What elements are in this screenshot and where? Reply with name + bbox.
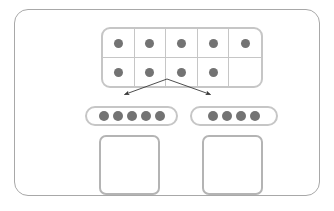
dot xyxy=(114,39,123,48)
ten-frame[interactable] xyxy=(101,27,263,88)
dot xyxy=(209,68,218,77)
dot xyxy=(177,39,186,48)
ten-frame-cell-r1c4[interactable] xyxy=(198,29,230,57)
ten-frame-cell-r1c3[interactable] xyxy=(166,29,198,57)
dot xyxy=(241,39,250,48)
ten-frame-top-row xyxy=(103,29,261,58)
right-answer-box[interactable] xyxy=(202,135,263,195)
worksheet-canvas xyxy=(0,0,334,211)
dot xyxy=(250,111,260,121)
ten-frame-cell-r1c5[interactable] xyxy=(229,29,261,57)
ten-frame-cell-r2c2[interactable] xyxy=(135,58,167,86)
ten-frame-cell-r2c4[interactable] xyxy=(198,58,230,86)
dot xyxy=(208,111,218,121)
left-dot-group[interactable] xyxy=(85,106,178,126)
dot xyxy=(236,111,246,121)
worksheet-card xyxy=(14,9,320,196)
dot xyxy=(127,111,137,121)
ten-frame-cell-r1c2[interactable] xyxy=(135,29,167,57)
ten-frame-cell-r2c5-empty[interactable] xyxy=(229,58,261,86)
ten-frame-cell-r1c1[interactable] xyxy=(103,29,135,57)
ten-frame-cell-r2c3[interactable] xyxy=(166,58,198,86)
empty-slot xyxy=(241,68,250,77)
ten-frame-cell-r2c1[interactable] xyxy=(103,58,135,86)
dot xyxy=(209,39,218,48)
left-answer-box[interactable] xyxy=(99,135,160,195)
dot xyxy=(145,68,154,77)
dot xyxy=(113,111,123,121)
dot xyxy=(155,111,165,121)
dot xyxy=(145,39,154,48)
ten-frame-bottom-row xyxy=(103,58,261,86)
dot xyxy=(99,111,109,121)
dot xyxy=(177,68,186,77)
right-dot-group[interactable] xyxy=(190,106,278,126)
dot xyxy=(141,111,151,121)
dot xyxy=(114,68,123,77)
dot xyxy=(222,111,232,121)
